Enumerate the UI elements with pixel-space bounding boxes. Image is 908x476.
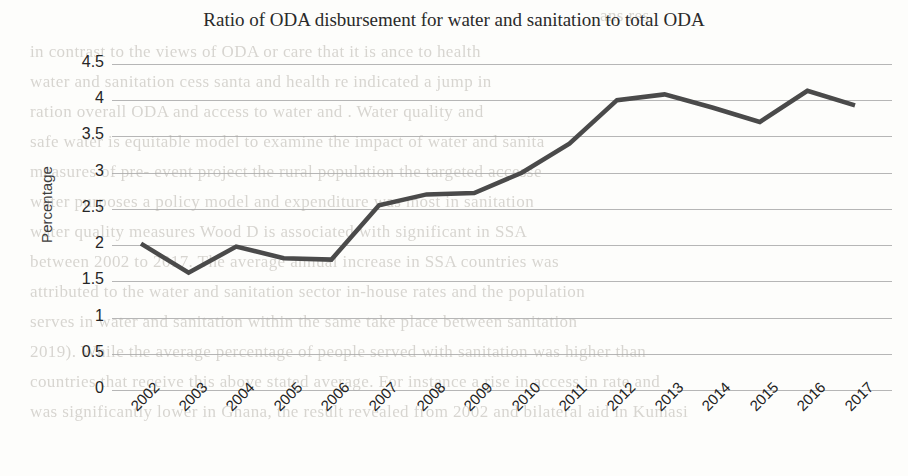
line-series <box>0 0 908 476</box>
y-axis-label: Percentage <box>38 135 55 275</box>
plot-area: 00.511.522.533.544.520022003200420052006… <box>0 0 908 476</box>
chart-page: ans resin contrast to the views of ODA o… <box>0 0 908 476</box>
chart-title: Ratio of ODA disbursement for water and … <box>0 9 908 31</box>
series-line <box>141 91 855 273</box>
